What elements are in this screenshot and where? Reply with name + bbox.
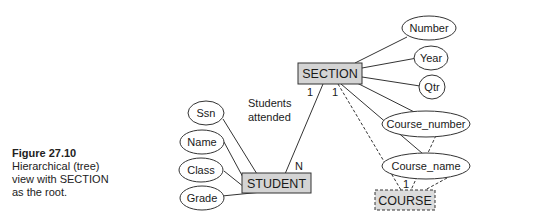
- svg-text:Class: Class: [187, 164, 215, 176]
- course-virtual-entity[interactable]: COURSE: [375, 190, 435, 210]
- hierarchy-diagram: SECTION STUDENT COURSE Number Year Qtr C…: [0, 0, 556, 218]
- student-label: STUDENT: [247, 177, 306, 191]
- attribute-number[interactable]: Number: [402, 16, 456, 40]
- attribute-year[interactable]: Year: [414, 46, 448, 70]
- attribute-course-number[interactable]: Course_number: [382, 111, 470, 137]
- svg-text:Course_name: Course_name: [391, 160, 460, 172]
- student-entity[interactable]: STUDENT: [242, 173, 311, 193]
- cardinality-section-student-1: 1: [307, 86, 313, 98]
- svg-text:Year: Year: [420, 52, 443, 64]
- relationship-label-line1: Students: [248, 97, 292, 109]
- section-entity[interactable]: SECTION: [298, 63, 362, 84]
- svg-text:Qtr: Qtr: [424, 81, 440, 93]
- attribute-course-name[interactable]: Course_name: [382, 153, 470, 179]
- attribute-qtr[interactable]: Qtr: [419, 75, 445, 99]
- cardinality-course-1: 1: [403, 178, 409, 190]
- cardinality-section-course-1: 1: [332, 86, 338, 98]
- attribute-name[interactable]: Name: [180, 130, 224, 154]
- relationship-label-line2: attended: [248, 111, 291, 123]
- attribute-class[interactable]: Class: [179, 158, 223, 182]
- svg-text:Course_number: Course_number: [387, 118, 466, 130]
- svg-text:Ssn: Ssn: [197, 107, 216, 119]
- course-label: COURSE: [378, 194, 431, 208]
- svg-text:Number: Number: [409, 22, 448, 34]
- attribute-ssn[interactable]: Ssn: [188, 101, 224, 125]
- svg-text:Name: Name: [187, 136, 216, 148]
- cardinality-student-n: N: [295, 160, 303, 172]
- svg-text:Grade: Grade: [187, 192, 218, 204]
- attribute-grade[interactable]: Grade: [180, 186, 224, 210]
- section-label: SECTION: [302, 67, 358, 81]
